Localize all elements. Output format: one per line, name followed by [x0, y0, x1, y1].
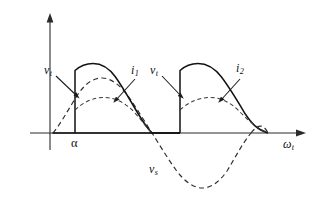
pointer-line-i2 — [221, 79, 240, 100]
axes-group — [30, 13, 306, 150]
pointer-line-vt-1 — [56, 76, 77, 96]
label-source-voltage-1: vt — [44, 64, 52, 78]
label-omega-t-axis: ωt — [283, 138, 294, 152]
annotation-arrows — [56, 76, 240, 103]
pointer-line-vt-2 — [162, 76, 181, 96]
label-current-2: i2 — [236, 62, 244, 76]
label-source-voltage-2: vt — [150, 64, 158, 78]
current-pulse-1-filtered-arc — [75, 98, 152, 134]
current-pulse-2-body — [180, 64, 268, 134]
label-firing-angle-alpha: α — [71, 137, 78, 150]
vertical-axis-arrowhead — [47, 13, 54, 23]
horizontal-axis-arrowhead — [296, 129, 306, 136]
label-source-voltage-bottom: vs — [149, 163, 158, 177]
label-current-1: i1 — [131, 64, 139, 78]
waveform-figure: vt i1 vt i2 α vs ωt — [0, 0, 312, 201]
current-pulse-2-filtered-arc — [180, 98, 268, 134]
